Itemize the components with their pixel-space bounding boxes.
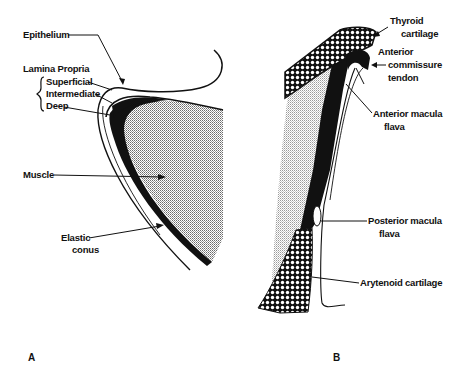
label-commissure: commissure [388,59,442,70]
label-thyroid: Thyroid [390,15,424,26]
anterior-commissure-tendon [345,50,370,70]
label-anterior: Anterior [378,46,414,57]
label-tendon: tendon [388,72,419,83]
label-conus: conus [72,244,99,255]
panel-label-a: A [28,352,35,363]
panel-a: Epithelium Lamina Propria Superficial In… [23,29,223,363]
label-anterior-macula: Anterior macula [373,108,443,119]
label-lamina-propria: Lamina Propria [23,63,90,74]
label-muscle: Muscle [23,169,54,180]
label-epithelium: Epithelium [23,29,70,40]
label-arytenoid: Arytenoid cartilage [360,277,442,288]
posterior-macula-flava [313,206,321,226]
label-deep: Deep [46,100,69,111]
label-superficial: Superficial [46,76,92,87]
label-posterior-macula: Posterior macula [368,215,443,226]
label-flava-posterior: flava [379,228,401,239]
label-cartilage: cartilage [401,28,438,39]
label-intermediate: Intermediate [46,88,100,99]
panel-b: Thyroid cartilage Anterior commissure te… [258,15,443,363]
label-elastic: Elastic [61,232,90,243]
label-flava-anterior: flava [384,121,406,132]
vocal-fold-diagram: Epithelium Lamina Propria Superficial In… [0,0,457,383]
lamina-propria-brace [37,77,44,111]
panel-label-b: B [333,352,340,363]
